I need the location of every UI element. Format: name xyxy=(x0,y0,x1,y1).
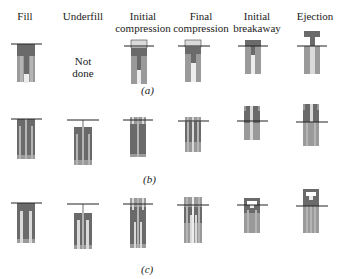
row-c-underfill xyxy=(67,204,99,249)
row-c-ejection xyxy=(296,189,328,233)
row-b-underfill xyxy=(67,120,99,165)
row-c-initial-compression xyxy=(123,198,153,248)
compaction-diagram xyxy=(0,0,339,279)
row-a-fill xyxy=(11,44,42,83)
row-a-final-compression xyxy=(178,40,210,82)
row-a-initial-compression xyxy=(124,40,154,84)
row-b-ejection xyxy=(296,104,328,146)
row-b-initial-compression xyxy=(123,117,153,157)
row-a-initial-breakaway xyxy=(238,40,268,74)
row-c-final-compression xyxy=(177,197,209,243)
row-b-final-compression xyxy=(178,117,209,152)
row-b-initial-breakaway xyxy=(237,106,268,140)
row-b-fill xyxy=(11,119,42,159)
row-c-initial-breakaway xyxy=(237,198,268,233)
row-a-ejection xyxy=(297,31,327,74)
row-c-fill xyxy=(11,203,42,243)
